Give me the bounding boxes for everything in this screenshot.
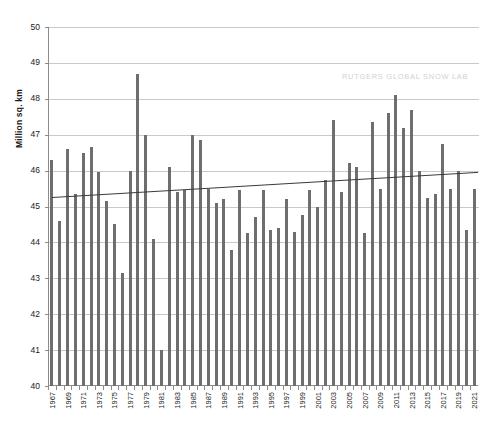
watermark-label: RUTGERS GLOBAL SNOW LAB [342, 72, 468, 81]
snow-cover-extent-chart: Million sq. km 4041424344454647484950 19… [0, 0, 502, 435]
trendline-layer [0, 0, 502, 435]
trendline [52, 172, 478, 197]
